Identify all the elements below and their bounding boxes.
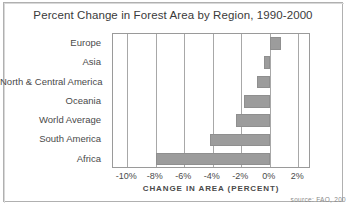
bar-row bbox=[113, 111, 309, 130]
bar-row bbox=[113, 150, 309, 169]
x-axis-title: CHANGE IN AREA (PERCENT) bbox=[112, 184, 310, 193]
bar-south-america bbox=[210, 134, 270, 147]
bar-series bbox=[113, 34, 309, 167]
bar-row bbox=[113, 34, 309, 53]
x-tick-neg6: -6% bbox=[175, 171, 191, 181]
bar-world-average bbox=[236, 114, 270, 127]
y-axis-label-europe: Europe bbox=[0, 33, 106, 52]
y-axis-label-north-central-america: North & Central America bbox=[0, 72, 106, 91]
y-axis-label-south-america: South America bbox=[0, 129, 106, 148]
source-note: source: FAO, 200 bbox=[291, 196, 346, 203]
plot-area bbox=[112, 33, 310, 168]
y-axis-label-world-average: World Average bbox=[0, 110, 106, 129]
bar-africa bbox=[156, 153, 270, 166]
x-tick-0: 0% bbox=[262, 171, 275, 181]
y-axis-category-labels: Europe Asia North & Central America Ocea… bbox=[0, 33, 106, 168]
y-axis-label-africa: Africa bbox=[0, 149, 106, 168]
x-tick-neg10: -10% bbox=[116, 171, 137, 181]
x-tick-neg2: -2% bbox=[232, 171, 248, 181]
bar-row bbox=[113, 130, 309, 149]
x-tick-2: 2% bbox=[291, 171, 304, 181]
x-tick-neg4: -4% bbox=[204, 171, 220, 181]
bar-row bbox=[113, 92, 309, 111]
bar-row bbox=[113, 73, 309, 92]
chart-figure: Percent Change in Forest Area by Region,… bbox=[0, 0, 346, 214]
bar-row bbox=[113, 53, 309, 72]
x-tick-neg8: -8% bbox=[147, 171, 163, 181]
y-axis-label-asia: Asia bbox=[0, 52, 106, 71]
bar-europe bbox=[270, 37, 281, 50]
bar-oceania bbox=[244, 95, 270, 108]
chart-title: Percent Change in Forest Area by Region,… bbox=[0, 9, 346, 21]
y-axis-label-oceania: Oceania bbox=[0, 91, 106, 110]
bar-asia bbox=[264, 56, 270, 69]
bar-north-central-america bbox=[257, 76, 270, 89]
